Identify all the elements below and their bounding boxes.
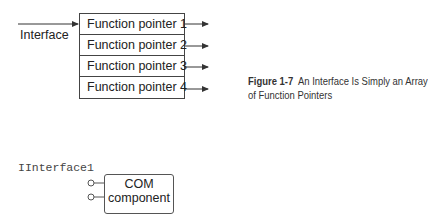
com-component-line-1: COM xyxy=(105,177,173,191)
interface-lollipop-2-icon xyxy=(88,194,94,200)
com-component-line-2: component xyxy=(105,191,173,205)
interface-name-label: IInterface1 xyxy=(18,161,94,174)
figure-caption: Figure 1-7 An Interface Is Simply an Arr… xyxy=(248,74,428,102)
interface-label: Interface xyxy=(20,28,69,42)
function-pointer-row: Function pointer 1 xyxy=(80,14,184,35)
function-pointer-row: Function pointer 4 xyxy=(80,77,184,98)
interface-lollipop-1-icon xyxy=(88,180,94,186)
caption-line-2: of Function Pointers xyxy=(248,88,428,102)
function-pointer-table: Function pointer 1 Function pointer 2 Fu… xyxy=(79,13,185,99)
function-pointer-row: Function pointer 3 xyxy=(80,56,184,77)
figure-number: Figure 1-7 xyxy=(248,75,293,87)
com-component-box: COM component xyxy=(104,174,174,214)
function-pointer-row: Function pointer 2 xyxy=(80,35,184,56)
caption-line-1: An Interface Is Simply an Array xyxy=(298,75,428,87)
